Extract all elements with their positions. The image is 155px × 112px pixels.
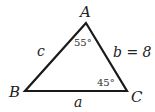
vertex-label-c: C [131,88,143,106]
side-label-c: c [37,43,45,59]
side-label-a: a [74,94,82,110]
vertex-label-a: A [78,3,91,21]
vertex-label-b: B [8,83,20,101]
side-label-b: b = 8 [113,44,152,60]
triangle-diagram: A B C c b = 8 a 55° 45° [0,0,155,112]
angle-label-a: 55° [74,37,92,48]
angle-label-c: 45° [97,77,115,88]
